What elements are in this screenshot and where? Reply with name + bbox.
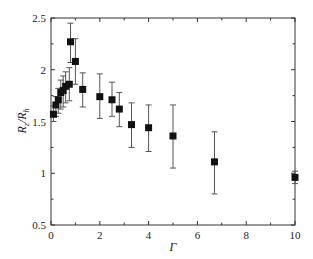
- y-tick-label: 0.5: [32, 219, 46, 231]
- x-tick-label: 2: [97, 229, 103, 241]
- x-tick-label: 0: [48, 229, 54, 241]
- x-tick-label: 4: [146, 229, 152, 241]
- data-point-marker: [170, 132, 177, 139]
- data-point-marker: [128, 121, 135, 128]
- chart: 0246810 0.511.522.5 Γ Rz/Rh: [0, 0, 313, 259]
- x-tick-label: 10: [290, 229, 302, 241]
- data-point-marker: [109, 96, 116, 103]
- y-tick-label: 1: [41, 167, 47, 179]
- y-tick-label: 2.5: [32, 12, 46, 24]
- data-point-marker: [66, 81, 73, 88]
- data-point-marker: [211, 158, 218, 165]
- y-tick-label: 1.5: [32, 116, 46, 128]
- data-point-marker: [116, 106, 123, 113]
- x-tick-label: 6: [195, 229, 201, 241]
- x-axis-ticks: 0246810: [48, 18, 301, 241]
- data-point-marker: [55, 96, 62, 103]
- data-markers: [50, 38, 299, 181]
- data-point-marker: [292, 174, 299, 181]
- data-point-marker: [96, 93, 103, 100]
- x-axis-label: Γ: [169, 240, 178, 254]
- data-point-marker: [145, 124, 152, 131]
- data-point-marker: [67, 38, 74, 45]
- y-axis-label: Rz/Rh: [15, 108, 31, 134]
- data-point-marker: [79, 86, 86, 93]
- data-point-marker: [72, 58, 79, 65]
- y-axis-label-group: Rz/Rh: [15, 108, 31, 134]
- x-tick-label: 8: [243, 229, 249, 241]
- y-tick-label: 2: [41, 64, 47, 76]
- data-point-marker: [50, 111, 57, 118]
- error-bars: [50, 23, 298, 194]
